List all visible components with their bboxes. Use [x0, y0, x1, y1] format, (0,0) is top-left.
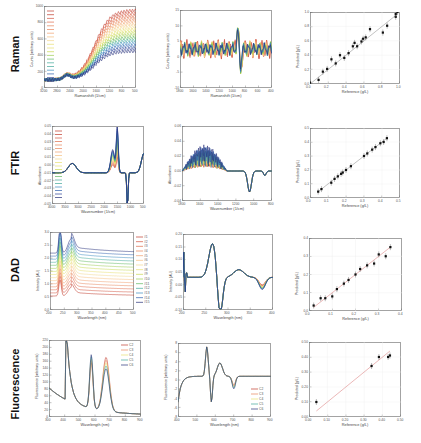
chart-fluorescence-preprocessed: C2C3C4C5C6400500600700800900-8-6-4-20246… — [178, 343, 271, 417]
x-tick-label: 1000 — [229, 89, 236, 93]
x-tick-label: 400 — [269, 311, 275, 315]
y-axis-label: Counts (arbitrary units) — [30, 31, 34, 67]
y-axis-label: Intensity (AU) — [36, 270, 40, 291]
y-tick-label: 1.0 — [44, 282, 49, 286]
y-tick-label: 1000 — [36, 4, 43, 8]
y-tick-label: 0.30 — [302, 370, 308, 374]
x-tick-label: 0.5 — [396, 199, 401, 203]
y-axis-label: Fluorescence (arbitrary units) — [35, 353, 39, 399]
y-tick-label: -6 — [174, 406, 177, 410]
y-tick-label: -5 — [176, 70, 179, 74]
y-tick-label: 0.00 — [176, 283, 182, 287]
y-axis-label: Predicted (g/L) — [295, 377, 299, 400]
x-axis-label: Wavenumber (1/cm) — [182, 207, 272, 211]
y-tick-label: 0.2 — [304, 68, 309, 72]
x-tick-label: 800 — [268, 202, 274, 206]
x-tick-label: 600 — [255, 89, 261, 93]
y-tick-label: 2.5 — [44, 243, 49, 247]
x-tick-label: 350 — [88, 311, 94, 315]
y-tick-label: -8 — [174, 415, 177, 419]
legend-label: C6 — [259, 407, 263, 411]
y-tick-label: 0.0 — [304, 82, 309, 86]
x-tick-label: 300 — [74, 311, 80, 315]
x-tick-label: 2400 — [66, 89, 73, 93]
plot-area — [309, 342, 401, 417]
x-tick-label: 350 — [247, 311, 253, 315]
x-tick-label: 0.50 — [397, 418, 403, 422]
y-tick-label: 0.05 — [45, 124, 51, 128]
x-tick-label: 0.1 — [324, 199, 329, 203]
plot-area — [183, 234, 273, 310]
x-axis-label: Wavelength (nm) — [183, 316, 273, 320]
y-tick-label: 120 — [42, 373, 48, 377]
y-tick-label: 0.6 — [304, 39, 309, 43]
x-tick-label: 1200 — [232, 202, 239, 206]
y-tick-label: 0 — [177, 55, 179, 59]
legend-label: #3 — [144, 244, 148, 248]
y-tick-label: 0.05 — [176, 270, 182, 274]
y-axis-label: Counts (arbitrary units) — [166, 33, 170, 69]
legend-label: C3 — [259, 392, 263, 396]
row-label-text: FTIR — [9, 150, 21, 174]
x-tick-label: 500 — [193, 418, 199, 422]
y-tick-label: 0.3 — [304, 154, 309, 158]
x-tick-label: 0.10 — [323, 418, 329, 422]
y-axis-label: Absorbance — [38, 166, 42, 185]
y-tick-label: 0.01 — [45, 155, 51, 159]
y-tick-label: 0.04 — [175, 139, 181, 143]
legend-label: C4 — [129, 353, 133, 357]
x-axis-label: Wavelength (nm) — [50, 316, 134, 320]
y-tick-label: 0.1 — [303, 291, 308, 295]
y-tick-label: 0.2 — [303, 273, 308, 277]
y-tick-label: 0.3 — [303, 254, 308, 258]
x-tick-label: 0.6 — [360, 85, 365, 89]
y-tick-label: 0.15 — [176, 245, 182, 249]
x-tick-label: 1000 — [250, 202, 257, 206]
legend-label: #12 — [144, 286, 150, 290]
y-tick-label: 10 — [175, 24, 179, 28]
y-tick-label: 1.5 — [44, 269, 49, 273]
x-tick-label: 450 — [116, 311, 122, 315]
y-axis-label: Absorbance — [168, 165, 172, 184]
y-tick-label: 0.0 — [44, 308, 49, 312]
legend-label: #9 — [144, 272, 148, 276]
y-axis-label: Fluorescence (arbitrary units) — [164, 354, 168, 400]
x-tick-label: 250 — [202, 311, 208, 315]
legend-label: C4 — [259, 397, 263, 401]
x-tick-label: 0.4 — [398, 312, 403, 316]
x-tick-label: 1400 — [214, 202, 221, 206]
y-tick-label: 160 — [42, 359, 48, 363]
y-tick-label: -0.02 — [173, 184, 181, 188]
y-tick-label: 0.8 — [304, 24, 309, 28]
y-tick-label: -0.05 — [43, 202, 51, 206]
legend-label: #4 — [144, 249, 148, 253]
x-tick-label: 500 — [140, 205, 146, 209]
x-tick-label: 500 — [130, 311, 136, 315]
x-tick-label: 250 — [60, 311, 66, 315]
legend-label: #5 — [144, 254, 148, 258]
x-tick-label: 800 — [248, 418, 254, 422]
x-tick-label: 1200 — [106, 89, 113, 93]
plot-area — [52, 126, 144, 204]
x-tick-label: 1600 — [189, 89, 196, 93]
y-tick-label: -0.04 — [43, 194, 51, 198]
legend-label: C5 — [129, 358, 133, 362]
plot-area — [309, 238, 402, 311]
x-tick-label: 500 — [76, 418, 82, 422]
y-tick-label: 0.5 — [304, 126, 309, 130]
y-tick-label: 400 — [37, 53, 43, 57]
y-tick-label: 0.04 — [45, 132, 51, 136]
y-tick-label: -2 — [174, 387, 177, 391]
x-tick-label: 800 — [242, 89, 248, 93]
y-tick-label: 100 — [42, 380, 48, 384]
y-tick-label: 0.02 — [175, 154, 181, 158]
y-tick-label: 2 — [175, 369, 177, 373]
chart-raman-preprocessed: 18001600140012001000800600400-10-5051015… — [180, 10, 272, 88]
y-tick-label: 0.5 — [44, 295, 49, 299]
chart-raman-raw: 3200280024002000160012008005000200400600… — [44, 6, 136, 88]
x-tick-label: 600 — [211, 418, 217, 422]
y-tick-label: 0.00 — [302, 415, 308, 419]
legend-label: #6 — [144, 258, 148, 262]
plot-area — [49, 340, 141, 417]
y-tick-label: 0 — [46, 415, 48, 419]
